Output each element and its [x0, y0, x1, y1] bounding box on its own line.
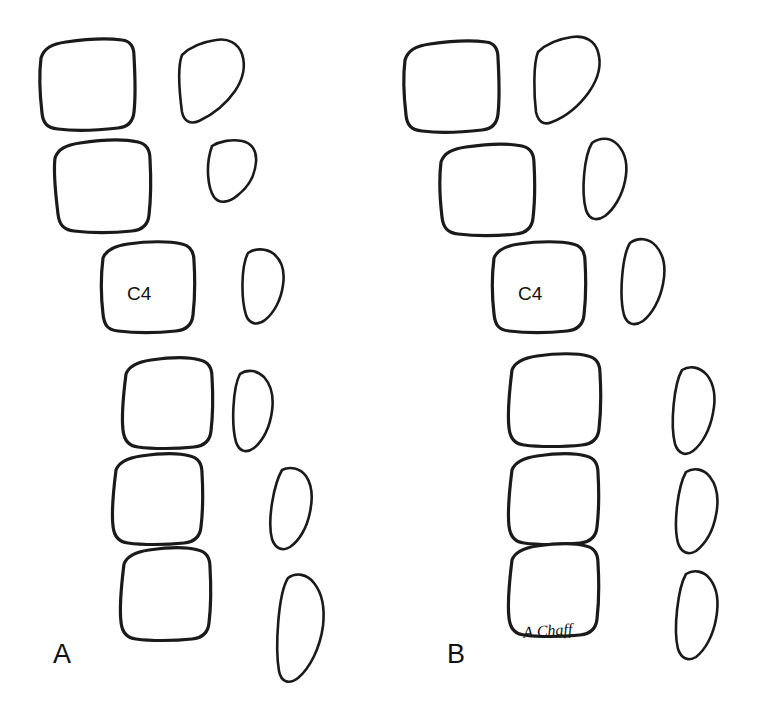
vertebra-body-a4: [122, 358, 212, 449]
vertebra-body-b5: [508, 454, 598, 545]
vertebra-body-b2: [440, 144, 535, 235]
panel-label-b: B: [447, 639, 466, 670]
vertebra-body-a5: [112, 454, 202, 545]
vertebra-label-c4-left: C4: [127, 283, 151, 305]
vertebra-body-b1: [404, 41, 499, 132]
spinous-process-a3: [242, 249, 283, 323]
spinous-process-b3: [622, 239, 665, 324]
panel-b-vertebral-bodies: [404, 41, 601, 637]
vertebra-label-c4-right: C4: [518, 283, 542, 305]
spine-line-drawing: [0, 0, 761, 705]
spinous-process-a2: [208, 140, 256, 201]
figure-canvas: A B C4 C4 A.Chaff: [0, 0, 761, 705]
spinous-process-b6: [676, 571, 717, 659]
spinous-process-b4: [673, 367, 715, 454]
vertebra-body-b4: [508, 354, 600, 447]
spinous-process-b2: [584, 139, 627, 219]
panel-label-a: A: [53, 639, 72, 670]
vertebra-body-a6: [120, 548, 210, 641]
spinous-process-a1: [179, 40, 244, 123]
panel-a-vertebral-bodies: [40, 39, 213, 641]
spinous-process-b5: [676, 469, 717, 553]
artist-signature: A.Chaff: [522, 620, 572, 641]
spinous-process-a4: [233, 371, 272, 451]
vertebra-body-a2: [54, 140, 150, 232]
spinous-process-b1: [534, 37, 599, 124]
vertebra-body-a1: [40, 39, 135, 130]
spinous-process-a6: [277, 575, 323, 682]
spinous-process-a5: [270, 468, 311, 549]
